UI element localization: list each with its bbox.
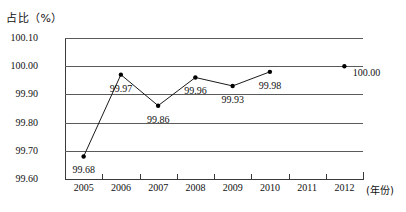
- gridline: [65, 38, 363, 39]
- x-axis-tick-label: 2005: [64, 182, 104, 193]
- x-axis-tick-mark: [289, 174, 290, 179]
- x-axis-tick-mark: [214, 174, 215, 179]
- data-point-value-label: 100.00: [346, 67, 386, 78]
- data-point-value-label: 99.68: [64, 164, 104, 175]
- x-axis-tick-mark: [326, 174, 327, 179]
- data-point-value-label: 99.97: [101, 83, 141, 94]
- x-axis-tick-label: 2008: [175, 182, 215, 193]
- gridline: [65, 66, 363, 67]
- y-axis-title: 占比（%）: [6, 9, 63, 25]
- y-axis-tick-label: 99.80: [0, 117, 38, 128]
- x-axis-tick-label: 2007: [138, 182, 178, 193]
- x-axis-tick-mark: [177, 174, 178, 179]
- x-axis-tick-mark: [140, 174, 141, 179]
- x-axis-tick-mark: [251, 174, 252, 179]
- x-axis-tick-label: 2009: [213, 182, 253, 193]
- x-axis-tick-label: 2006: [101, 182, 141, 193]
- x-axis-end-cap: [363, 172, 364, 180]
- y-axis-tick-label: 99.60: [0, 173, 38, 184]
- plot-area: [65, 38, 363, 179]
- y-axis-tick-label: 100.00: [0, 60, 38, 71]
- y-axis-tick-label: 99.70: [0, 145, 38, 156]
- x-axis-unit-label: (年份): [366, 182, 394, 197]
- y-axis-line: [65, 38, 66, 179]
- y-axis-tick-label: 99.90: [0, 88, 38, 99]
- data-point-value-label: 99.86: [138, 114, 178, 125]
- x-axis-line: [65, 179, 364, 180]
- y-axis-tick-label: 100.10: [0, 32, 38, 43]
- x-axis-tick-label: 2011: [287, 182, 327, 193]
- gridline: [65, 123, 363, 124]
- data-point-value-label: 99.98: [250, 80, 290, 91]
- x-axis-tick-label: 2010: [250, 182, 290, 193]
- data-point-value-label: 99.96: [175, 85, 215, 96]
- gridline: [65, 151, 363, 152]
- x-axis-tick-label: 2012: [324, 182, 364, 193]
- data-point-value-label: 99.93: [213, 94, 253, 105]
- line-chart: 占比（%） 99.6099.7099.8099.90100.00100.1020…: [0, 0, 406, 212]
